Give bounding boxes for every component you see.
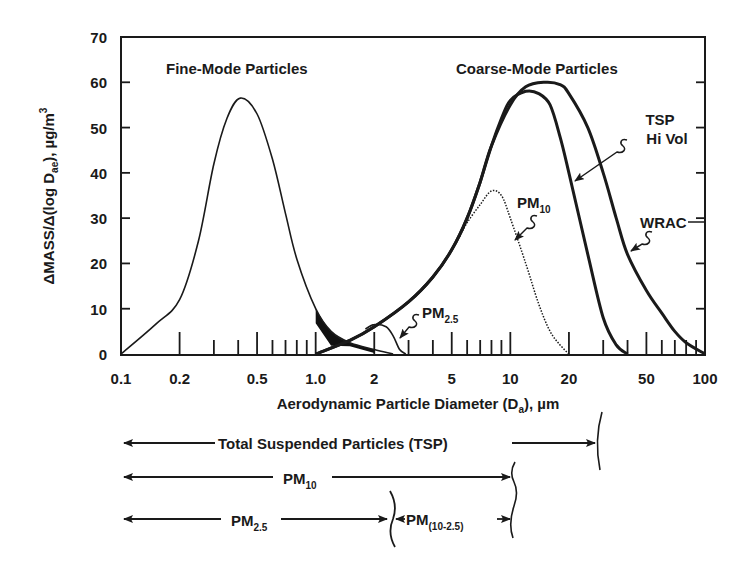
y-axis-ticks: 010203040506070 [90,29,705,363]
fine-mode-label: Fine-Mode Particles [166,60,308,77]
x-tick-label: 50 [638,370,655,387]
tsp-hivol-label: TSP Hi Vol [645,111,687,147]
y-tick-label: 40 [90,165,107,182]
curve-tsp-hi-vol [316,91,628,354]
plot-frame [121,37,705,355]
y-tick-label: 60 [90,74,107,91]
y-tick-label: 50 [90,120,107,137]
y-tick-label: 0 [99,346,107,363]
curve-fine-mode-particles [121,98,393,354]
x-tick-label: 5 [448,370,456,387]
x-tick-label: 100 [692,370,717,387]
pm25-cutoff-bracket [390,491,395,547]
coarse-mode-label: Coarse-Mode Particles [456,60,618,77]
x-tick-label: 0.2 [169,370,190,387]
pm25-label: PM2.5 [422,304,459,325]
x-axis-title: Aerodynamic Particle Diameter (Da), µm [277,395,560,415]
size-range-tsp: Total Suspended Particles (TSP) [124,412,602,470]
wrac-pointer-arrow [631,232,652,251]
x-tick-label: 1.0 [305,370,326,387]
tsp-cutoff-bracket [597,412,602,470]
curve-pm10 [460,190,569,354]
svg-text:PM(10-2.5): PM(10-2.5) [406,511,464,532]
tsp-hivol-pointer-arrow [575,140,627,181]
pm10-cutoff-bracket [511,462,517,538]
curves [121,82,705,354]
y-tick-label: 20 [90,255,107,272]
x-tick-label: 10 [502,370,519,387]
pm10-label: PM10 [517,194,551,215]
y-tick-label: 70 [90,29,107,46]
particle-size-distribution-chart: 010203040506070 0.10.20.51.025102050100 … [0,0,747,572]
x-tick-label: 20 [561,370,578,387]
x-tick-label: 0.1 [111,370,132,387]
x-tick-label: 2 [370,370,378,387]
pm25-pointer-arrow [400,315,419,338]
x-axis-ticks: 0.10.20.51.025102050100 [111,332,718,387]
x-tick-label: 0.5 [247,370,268,387]
y-axis-title: ΔMASS/Δ(log Dae), µg/m3 [38,107,60,284]
y-tick-label: 10 [90,301,107,318]
svg-text:PM2.5: PM2.5 [231,512,268,533]
svg-text:PM10: PM10 [283,470,317,491]
wrac-label: WRAC [640,214,687,231]
y-tick-label: 30 [90,210,107,227]
size-range-pm25: PM2.5 [124,491,395,547]
size-range-pm10-2.5: PM(10-2.5) [396,511,510,532]
svg-text:Total Suspended Particles (TSP: Total Suspended Particles (TSP) [218,435,448,452]
pm10-pointer-arrow [515,216,537,240]
